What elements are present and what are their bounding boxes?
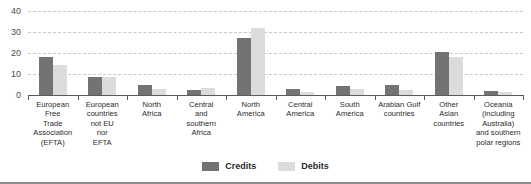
x-axis-tick xyxy=(523,95,524,100)
legend-swatch-icon xyxy=(278,162,295,171)
bar-debits xyxy=(102,77,116,95)
legend-label: Debits xyxy=(301,161,329,171)
bar-debits xyxy=(53,65,67,95)
bar-chart: 010203040 European Free Trade Associatio… xyxy=(0,0,531,184)
bar-group xyxy=(424,11,474,95)
bar-group xyxy=(177,11,227,95)
bar-credits xyxy=(336,86,350,95)
y-tick-label-40: 40 xyxy=(0,6,21,16)
y-tick-label-0: 0 xyxy=(0,90,21,100)
x-axis-category-label: North Africa xyxy=(127,100,177,119)
bottom-divider xyxy=(0,182,531,184)
x-axis-category-label: European Free Trade Association (EFTA) xyxy=(28,100,78,147)
x-axis-category-label: Other Asian countries xyxy=(424,100,474,128)
bar-debits xyxy=(449,57,463,95)
bar-debits xyxy=(201,88,215,95)
legend-item-debits[interactable]: Debits xyxy=(278,161,329,171)
bar-debits xyxy=(251,28,265,95)
x-axis-category-label: Arabian Gulf countries xyxy=(375,100,425,119)
bar-credits xyxy=(237,38,251,95)
y-tick-label-10: 10 xyxy=(0,69,21,79)
plot-area xyxy=(28,11,523,95)
y-tick-label-20: 20 xyxy=(0,48,21,58)
bar-credits xyxy=(39,57,53,95)
x-axis-category-label: European countries not EU nor EFTA xyxy=(78,100,128,147)
bar-group xyxy=(276,11,326,95)
legend-item-credits[interactable]: Credits xyxy=(202,161,256,171)
bar-group xyxy=(474,11,524,95)
legend-swatch-icon xyxy=(202,162,219,171)
x-axis-category-label: Oceania (including Australia) and southe… xyxy=(474,100,524,147)
bar-group xyxy=(226,11,276,95)
x-axis-category-label: Central and southern Africa xyxy=(177,100,227,138)
x-axis-category-label: North America xyxy=(226,100,276,119)
bar-credits xyxy=(138,85,152,96)
y-tick-label-30: 30 xyxy=(0,27,21,37)
bar-group xyxy=(28,11,78,95)
bar-credits xyxy=(385,85,399,96)
bar-group xyxy=(325,11,375,95)
bar-groups xyxy=(28,11,523,95)
bar-group xyxy=(375,11,425,95)
x-axis-labels: European Free Trade Association (EFTA)Eu… xyxy=(28,100,523,147)
bar-group xyxy=(78,11,128,95)
bar-credits xyxy=(88,77,102,95)
chart-legend: CreditsDebits xyxy=(0,161,531,171)
bar-group xyxy=(127,11,177,95)
bar-credits xyxy=(435,52,449,95)
x-axis-category-label: Central America xyxy=(276,100,326,119)
legend-label: Credits xyxy=(225,161,256,171)
x-axis-category-label: South America xyxy=(325,100,375,119)
